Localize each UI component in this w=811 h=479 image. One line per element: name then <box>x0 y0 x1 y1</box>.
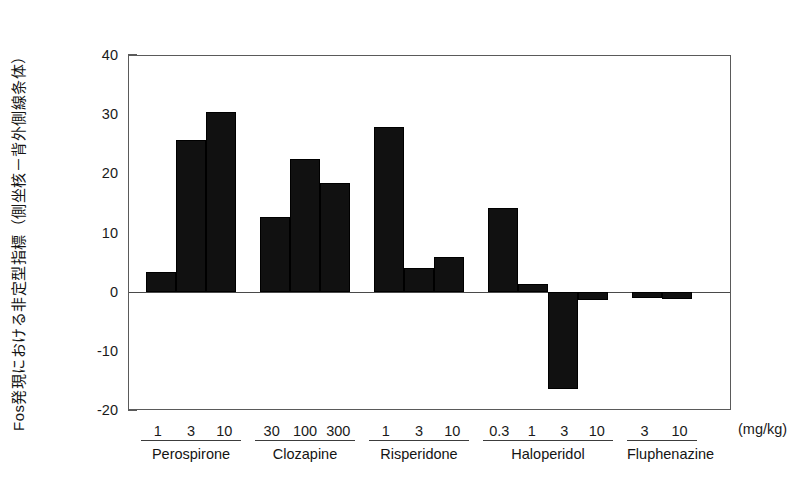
group-name: Perospirone <box>141 446 241 462</box>
y-tick-label: 10 <box>78 225 118 241</box>
dose-row: 310 <box>627 420 697 439</box>
dose-label: 10 <box>581 423 614 439</box>
dose-row: 30100300 <box>255 420 355 439</box>
y-axis-tick-labels: 403020100-10-20 <box>72 55 118 410</box>
dose-label: 100 <box>288 423 321 439</box>
bar <box>632 292 662 299</box>
dose-label: 30 <box>255 423 288 439</box>
x-axis-labels: (mg/kg) 1310Perospirone30100300Clozapine… <box>0 410 811 479</box>
dose-row: 1310 <box>141 420 241 439</box>
group-underline <box>141 440 241 441</box>
dose-label: 0.3 <box>483 423 516 439</box>
bar <box>290 159 320 292</box>
dose-label: 3 <box>402 423 435 439</box>
bar <box>548 292 578 390</box>
y-tick-label: 20 <box>78 165 118 181</box>
x-group-risperidone: 1310Risperidone <box>369 420 469 462</box>
group-underline <box>255 440 355 441</box>
dose-label: 1 <box>369 423 402 439</box>
group-name: Clozapine <box>255 446 355 462</box>
y-tick-label: 40 <box>78 47 118 63</box>
bars-container <box>128 55 731 410</box>
unit-label: (mg/kg) <box>738 421 787 437</box>
dose-label: 10 <box>436 423 469 439</box>
bar <box>488 208 518 292</box>
dose-label: 3 <box>548 423 581 439</box>
x-group-perospirone: 1310Perospirone <box>141 420 241 462</box>
y-tick-label: -10 <box>78 343 118 359</box>
dose-row: 0.31310 <box>483 420 613 439</box>
bar <box>518 284 548 292</box>
bar <box>434 257 464 291</box>
x-group-haloperidol: 0.31310Haloperidol <box>483 420 613 462</box>
y-tick-label: 0 <box>78 284 118 300</box>
dose-label: 1 <box>141 423 174 439</box>
bar <box>176 140 206 292</box>
bar <box>662 292 692 299</box>
group-underline <box>627 440 697 441</box>
y-tick-label: 30 <box>78 106 118 122</box>
x-group-fluphenazine: 310Fluphenazine <box>627 420 697 462</box>
dose-row: 1310 <box>369 420 469 439</box>
bar <box>260 217 290 292</box>
dose-label: 3 <box>627 423 662 439</box>
group-name: Fluphenazine <box>627 446 697 462</box>
bar <box>578 292 608 300</box>
group-underline <box>483 440 613 441</box>
bar <box>206 112 236 292</box>
x-group-clozapine: 30100300Clozapine <box>255 420 355 462</box>
bar <box>320 183 350 292</box>
y-axis-title: Fos発現における非定型指標（側坐核－背外側線条体） <box>0 0 34 479</box>
dose-label: 300 <box>322 423 355 439</box>
dose-label: 3 <box>174 423 207 439</box>
dose-label: 10 <box>662 423 697 439</box>
bar <box>404 268 434 292</box>
group-underline <box>369 440 469 441</box>
dose-label: 1 <box>516 423 549 439</box>
group-name: Haloperidol <box>483 446 613 462</box>
bar <box>146 272 176 292</box>
bar <box>374 127 404 292</box>
group-name: Risperidone <box>369 446 469 462</box>
dose-label: 10 <box>208 423 241 439</box>
